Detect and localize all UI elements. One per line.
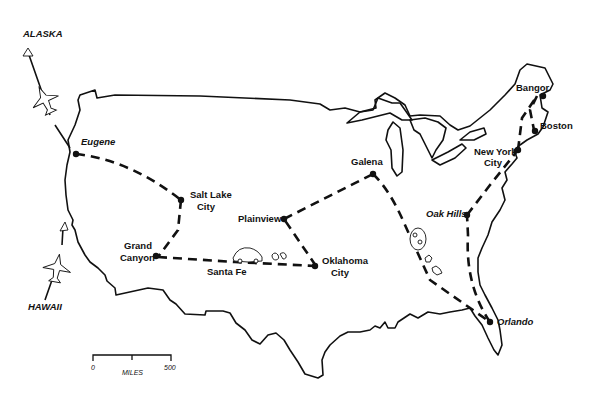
label-orlando: Orlando [497, 316, 534, 327]
label-salt-lake-city-2: City [197, 201, 216, 212]
label-oklahoma-city-1: Oklahoma [322, 255, 369, 266]
city-dot-orlando [487, 319, 493, 325]
label-galena: Galena [351, 156, 383, 167]
label-new-york-city-1: New York [474, 146, 517, 157]
city-dot-boston [532, 128, 538, 134]
label-oak-hills: Oak Hills [426, 208, 467, 219]
route-eugene-alaska [29, 55, 70, 148]
scale-unit: MILES [122, 369, 143, 376]
label-new-york-city-2: City [484, 157, 503, 168]
route-plainview-galena [284, 174, 373, 219]
route-galena-orlando [373, 174, 490, 322]
route-bangor-boston [530, 96, 537, 130]
label-eugene: Eugene [81, 136, 116, 147]
car-icon [233, 248, 286, 263]
city-dot-plainview [281, 216, 287, 222]
city-dot-oklahoma-city [312, 263, 318, 269]
label-plainview: Plainview [238, 213, 282, 224]
city-dot-eugene [73, 151, 79, 157]
lake-ontario [460, 128, 486, 140]
city-dot-bangor [540, 93, 546, 99]
city-dot-galena [370, 171, 376, 177]
route-oklahoma-plainview [284, 219, 316, 266]
route-eugene-saltlake [76, 154, 181, 200]
scale-end: 500 [164, 364, 176, 371]
arrow-head-icon [23, 48, 33, 56]
airplane-icon [26, 81, 63, 118]
label-grand-canyon-2: Canyon [120, 252, 155, 263]
scale-bar: 0 MILES 500 [91, 355, 176, 376]
label-oklahoma-city-2: City [331, 267, 350, 278]
label-grand-canyon-1: Grand [124, 240, 152, 251]
scale-start: 0 [91, 364, 95, 371]
label-boston: Boston [540, 120, 573, 131]
arrow-head-icon [60, 222, 68, 231]
city-dot-salt-lake-city [178, 197, 184, 203]
label-salt-lake-city-1: Salt Lake [190, 189, 232, 200]
airplane-icon [41, 252, 73, 284]
route-saltlake-grandcanyon [158, 200, 181, 257]
label-santa-fe: Santa Fe [207, 266, 247, 277]
us-outline [65, 64, 553, 378]
us-route-map: ALASKA HAWAII Eugene Salt Lake City Gran… [0, 0, 599, 405]
lake-huron [410, 118, 446, 158]
rock-sketch-icon [410, 228, 442, 275]
lake-michigan [386, 122, 403, 176]
label-bangor: Bangor [516, 82, 550, 93]
travel-routes [29, 55, 537, 322]
label-alaska: ALASKA [22, 28, 63, 39]
label-hawaii: HAWAII [28, 301, 62, 312]
